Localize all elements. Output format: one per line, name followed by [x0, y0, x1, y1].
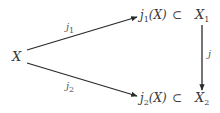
arrow-j1: [27, 17, 137, 50]
node-j2x: j2(X): [140, 92, 167, 107]
node-x: X: [12, 50, 21, 63]
node-x-base: X: [12, 49, 21, 64]
node-j1x: j1(X): [140, 9, 167, 24]
label-j1: j1: [66, 22, 74, 35]
diagram-arrows: [0, 0, 220, 113]
node-x1: X1: [195, 8, 209, 24]
subset-symbol-bottom: ⊂: [172, 92, 182, 104]
subset-symbol-top: ⊂: [172, 9, 182, 21]
arrow-j2: [27, 63, 137, 96]
label-j: j: [208, 49, 211, 59]
node-x2: X2: [195, 91, 209, 107]
label-j2: j2: [66, 81, 74, 94]
